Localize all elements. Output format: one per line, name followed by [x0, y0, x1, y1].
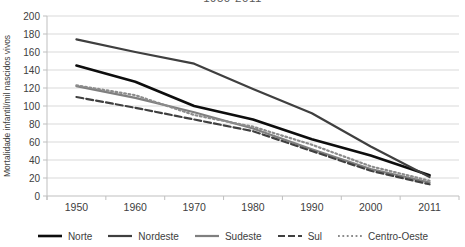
legend-swatch-sudeste: [194, 233, 220, 239]
series-line-sul: [76, 97, 429, 184]
legend-item-centro-oeste: Centro-Oeste: [337, 231, 428, 242]
y-tick-label: 140: [23, 65, 40, 76]
legend-label-sudeste: Sudeste: [225, 231, 262, 242]
legend-label-norte: Norte: [68, 231, 92, 242]
x-tick-label: 2000: [359, 201, 383, 213]
series-line-norte: [76, 66, 429, 176]
legend-swatch-centro-oeste: [337, 233, 363, 239]
series-line-centro-oeste: [76, 85, 429, 180]
legend-label-centro-oeste: Centro-Oeste: [368, 231, 428, 242]
legend-item-sudeste: Sudeste: [194, 231, 262, 242]
y-tick-label: 20: [29, 173, 41, 184]
plot-area: 0204060801001201401601802001950196019701…: [0, 0, 465, 220]
legend-swatch-nordeste: [107, 233, 133, 239]
legend-swatch-norte: [37, 233, 63, 239]
y-tick-label: 160: [23, 47, 40, 58]
legend-label-nordeste: Nordeste: [138, 231, 179, 242]
x-tick-label: 1950: [65, 201, 89, 213]
x-tick-label: 1970: [182, 201, 206, 213]
x-tick-label: 2011: [418, 201, 441, 213]
y-tick-label: 100: [23, 101, 40, 112]
y-axis-title: Mortalidade infantil/mil nascidos vivos: [2, 35, 12, 177]
legend-swatch-sul: [277, 233, 303, 239]
legend: NorteNordesteSudesteSulCentro-Oeste: [0, 227, 465, 245]
y-tick-label: 120: [23, 83, 40, 94]
legend-item-nordeste: Nordeste: [107, 231, 179, 242]
y-tick-label: 200: [23, 11, 40, 22]
y-tick-label: 180: [23, 29, 40, 40]
chart: 1950-2011 020406080100120140160180200195…: [0, 0, 465, 247]
y-tick-label: 80: [29, 119, 41, 130]
y-tick-label: 0: [34, 191, 40, 202]
x-tick-label: 1960: [124, 201, 148, 213]
legend-label-sul: Sul: [308, 231, 322, 242]
x-tick-label: 1980: [241, 201, 265, 213]
legend-item-sul: Sul: [277, 231, 322, 242]
x-tick-label: 1990: [300, 201, 324, 213]
legend-item-norte: Norte: [37, 231, 92, 242]
y-tick-label: 40: [29, 155, 41, 166]
y-tick-label: 60: [29, 137, 41, 148]
